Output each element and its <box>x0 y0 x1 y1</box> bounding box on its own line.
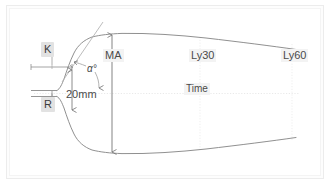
label-ly30: Ly30 <box>189 50 216 61</box>
label-r-text: R <box>41 97 55 112</box>
label-k: K <box>41 44 54 55</box>
label-time-text: Time <box>184 83 210 95</box>
alpha-leader-lower <box>95 72 99 88</box>
label-alpha-angle: α° <box>87 64 97 74</box>
alpha-tangent-line <box>62 22 103 82</box>
label-time-axis: Time <box>184 84 210 94</box>
label-ma-text: MA <box>103 49 124 62</box>
label-k-text: K <box>41 42 54 57</box>
label-ma: MA <box>103 50 124 61</box>
teg-plot <box>0 0 331 186</box>
label-r: R <box>41 99 55 110</box>
label-alpha-text: α° <box>87 63 97 74</box>
teg-lower-trace <box>57 97 296 154</box>
alpha-leader-upper <box>74 62 86 66</box>
teg-upper-trace <box>57 33 296 90</box>
label-ly60-text: Ly60 <box>281 49 308 62</box>
label-amplitude-text: 20mm <box>66 88 97 100</box>
label-amplitude-20mm: 20mm <box>66 89 97 100</box>
label-ly30-text: Ly30 <box>189 49 216 62</box>
label-ly60: Ly60 <box>281 50 308 61</box>
teg-figure: K R α° 20mm MA Ly30 Ly60 Time <box>0 0 331 186</box>
